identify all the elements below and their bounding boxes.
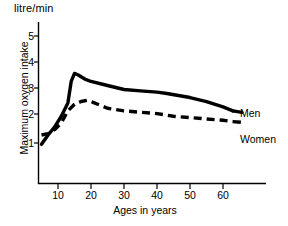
legend-swatch-men bbox=[233, 111, 242, 113]
series-line-women bbox=[42, 100, 233, 135]
x-axis-ticks bbox=[58, 184, 223, 189]
data-series bbox=[42, 73, 242, 144]
chart-container: litre/min Maximum oxygen intake Ages in … bbox=[0, 0, 288, 226]
legend-swatch-women bbox=[233, 122, 242, 123]
chart-plot-area bbox=[0, 0, 288, 226]
axis-lines bbox=[38, 22, 266, 184]
